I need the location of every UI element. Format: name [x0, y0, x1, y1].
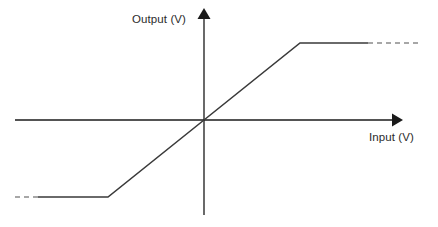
- x-axis-arrowhead-icon: [392, 114, 403, 127]
- y-axis-arrowhead-icon: [198, 8, 211, 19]
- transfer-characteristic-figure: Output (V) Input (V): [0, 0, 438, 227]
- x-axis-label: Input (V): [369, 130, 414, 144]
- figure-canvas: [0, 0, 438, 227]
- y-axis-label: Output (V): [132, 12, 186, 26]
